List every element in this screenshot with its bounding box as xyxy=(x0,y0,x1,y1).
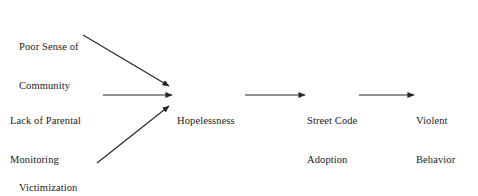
node-label-line: Lack of Parental xyxy=(10,114,81,127)
node-street-code-adoption: Street Code Adoption xyxy=(307,88,357,192)
path-diagram: Poor Sense of Community Lack of Parental… xyxy=(0,0,478,196)
node-label-line: Victimization xyxy=(19,181,77,194)
node-label-line: Hopelessness xyxy=(177,114,235,127)
node-label-line: Violent xyxy=(416,114,455,127)
node-victimization-and-threats: Victimization and Threats xyxy=(19,155,77,196)
node-label-line: Street Code xyxy=(307,114,357,127)
node-violent-behavior: Violent Behavior xyxy=(416,88,455,192)
node-label-line: Behavior xyxy=(416,153,455,166)
node-label-line: Adoption xyxy=(307,153,357,166)
node-hopelessness: Hopelessness xyxy=(177,88,235,153)
edge-poor-sense-to-hopelessness xyxy=(83,35,169,86)
node-label-line: Poor Sense of xyxy=(19,40,79,53)
edge-victimization-to-hopelessness xyxy=(97,106,169,163)
